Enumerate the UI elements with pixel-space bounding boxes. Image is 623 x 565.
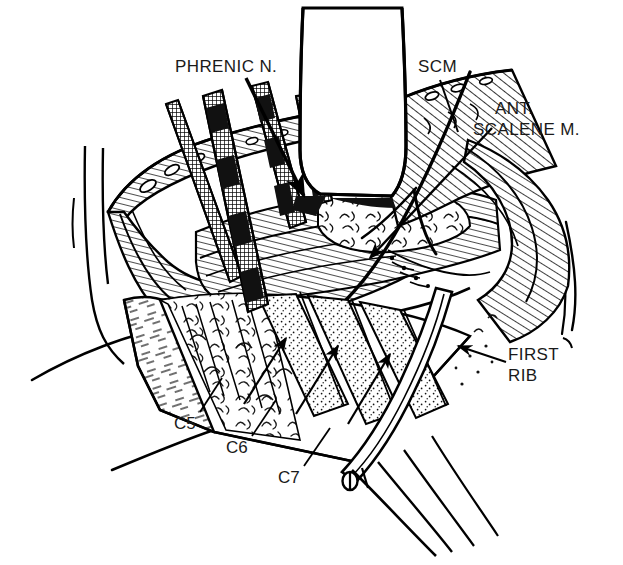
- retractor-blade: [300, 8, 406, 196]
- label-scm: SCM: [418, 57, 457, 77]
- label-ant-scalene-line1: ANT.: [495, 98, 533, 119]
- label-first-rib-line1: FIRST: [508, 344, 559, 365]
- label-phrenic-nerve: PHRENIC N.: [175, 57, 277, 77]
- label-first-rib-line2: RIB: [508, 365, 538, 386]
- anatomy-drawing-svg: [0, 0, 623, 565]
- label-root-c6: C6: [226, 438, 248, 457]
- anatomical-figure: PHRENIC N. SCM ANT. SCALENE M. FIRST RIB…: [0, 0, 623, 565]
- label-root-c5: C5: [174, 414, 196, 433]
- label-root-c7: C7: [278, 468, 300, 487]
- label-ant-scalene-line2: SCALENE M.: [473, 119, 580, 140]
